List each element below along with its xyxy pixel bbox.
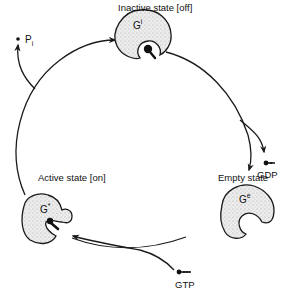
arrow-gtp-tip xyxy=(73,236,140,250)
label-gtp: GTP xyxy=(175,279,195,290)
protein-inactive xyxy=(115,10,171,59)
arrow-pi-release xyxy=(18,45,35,89)
protein-empty-label: Ge xyxy=(239,192,251,205)
label-inactive-state: Inactive state [off] xyxy=(118,2,192,13)
pi-molecule-icon xyxy=(16,37,20,41)
arrow-empty-to-active xyxy=(72,237,186,248)
protein-inactive-label: Gi xyxy=(133,18,142,31)
gtp-molecule-icon xyxy=(177,270,191,275)
arrow-gtp-binding xyxy=(140,250,174,270)
arrow-inactive-to-empty xyxy=(166,52,251,170)
protein-active-label: G* xyxy=(40,202,51,215)
gdp-molecule-icon xyxy=(264,161,275,166)
label-active-state: Active state [on] xyxy=(38,172,106,183)
label-pi: Pi xyxy=(25,34,33,47)
label-gdp: GDP xyxy=(257,169,278,180)
cycle-diagram xyxy=(0,0,293,298)
